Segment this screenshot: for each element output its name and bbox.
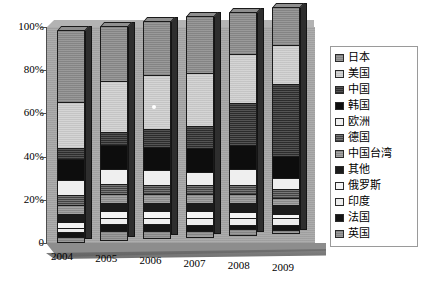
legend-item[interactable]: 中国台湾 bbox=[335, 146, 414, 162]
legend-item[interactable]: 韩国 bbox=[335, 98, 414, 114]
legend-swatch-icon bbox=[335, 134, 344, 142]
legend-item[interactable]: 欧洲 bbox=[335, 114, 414, 130]
legend-swatch-icon bbox=[335, 118, 344, 126]
legend-item-label: 俄罗斯 bbox=[348, 180, 381, 192]
legend-swatch-icon bbox=[335, 182, 344, 190]
legend-swatch-icon bbox=[335, 150, 344, 158]
legend-item-label: 日本 bbox=[348, 52, 370, 64]
x-tick-label: 2006 bbox=[139, 254, 161, 266]
legend-item[interactable]: 俄罗斯 bbox=[335, 178, 414, 194]
chart-legend[interactable]: 日本美国中国韩国欧洲德国中国台湾其他俄罗斯印度法国英国 bbox=[330, 46, 418, 247]
legend-item-label: 法国 bbox=[348, 212, 370, 224]
legend-item-label: 欧洲 bbox=[348, 116, 370, 128]
legend-item[interactable]: 中国 bbox=[335, 82, 414, 98]
x-tick-label: 2004 bbox=[51, 250, 73, 262]
legend-item-label: 中国台湾 bbox=[348, 148, 392, 160]
legend-item[interactable]: 日本 bbox=[335, 50, 414, 66]
chart-page: 100%80%60%40%20%0 2004200520062007200820… bbox=[0, 0, 426, 288]
x-tick-label: 2008 bbox=[228, 259, 250, 271]
legend-swatch-icon bbox=[335, 230, 344, 238]
legend-item[interactable]: 美国 bbox=[335, 66, 414, 82]
legend-swatch-icon bbox=[335, 70, 344, 78]
legend-swatch-icon bbox=[335, 102, 344, 110]
legend-item-label: 德国 bbox=[348, 132, 370, 144]
legend-swatch-icon bbox=[335, 214, 344, 222]
legend-swatch-icon bbox=[335, 166, 344, 174]
x-tick-label: 2005 bbox=[95, 252, 117, 264]
legend-item-label: 韩国 bbox=[348, 100, 370, 112]
x-tick-label: 2007 bbox=[184, 257, 206, 269]
legend-item-label: 其他 bbox=[348, 164, 370, 176]
legend-swatch-icon bbox=[335, 198, 344, 206]
legend-item[interactable]: 其他 bbox=[335, 162, 414, 178]
legend-item[interactable]: 印度 bbox=[335, 194, 414, 210]
legend-item[interactable]: 德国 bbox=[335, 130, 414, 146]
legend-item-label: 美国 bbox=[348, 68, 370, 80]
legend-item-label: 中国 bbox=[348, 84, 370, 96]
legend-item[interactable]: 法国 bbox=[335, 210, 414, 226]
legend-item-label: 英国 bbox=[348, 228, 370, 240]
legend-swatch-icon bbox=[335, 86, 344, 94]
legend-swatch-icon bbox=[335, 54, 344, 62]
legend-item-label: 印度 bbox=[348, 196, 370, 208]
legend-item[interactable]: 英国 bbox=[335, 226, 414, 242]
image-artifact-dot bbox=[152, 105, 156, 109]
x-tick-label: 2009 bbox=[272, 261, 294, 273]
